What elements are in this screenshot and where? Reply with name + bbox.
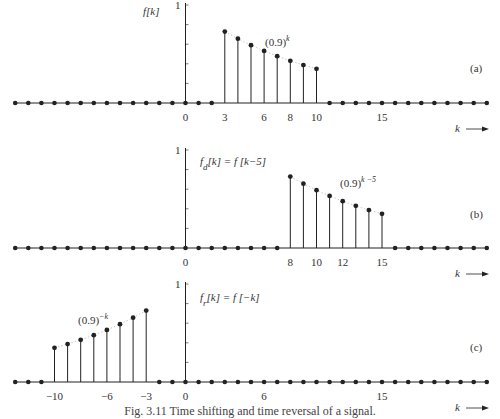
zero-sample — [354, 101, 359, 106]
panel-title: fd[k] = f [k−5] — [200, 155, 266, 172]
zero-sample — [471, 101, 476, 106]
zero-sample — [131, 246, 136, 251]
zero-sample — [236, 246, 241, 251]
zero-sample — [249, 246, 254, 251]
zero-sample — [432, 380, 437, 385]
zero-sample — [39, 246, 44, 251]
panel-title: f[k] — [143, 5, 160, 17]
zero-sample — [183, 380, 188, 385]
zero-sample — [419, 246, 424, 251]
zero-sample — [170, 101, 175, 106]
y-tick-label-1: 1 — [175, 278, 181, 290]
stem-sample — [288, 58, 293, 63]
stem-sample — [78, 337, 83, 342]
zero-sample — [13, 101, 18, 106]
zero-sample — [406, 246, 411, 251]
formula-label: (0.9)k — [265, 34, 290, 49]
panel-label: (a) — [470, 62, 483, 75]
zero-sample — [157, 246, 162, 251]
zero-sample — [406, 101, 411, 106]
zero-sample — [209, 246, 214, 251]
x-tick-label: 6 — [261, 390, 267, 402]
zero-sample — [118, 101, 123, 106]
zero-sample — [236, 380, 241, 385]
figure-caption: Fig. 3.11 Time shifting and time reversa… — [0, 404, 500, 419]
zero-sample — [13, 380, 18, 385]
stem-sample — [131, 315, 136, 320]
zero-sample — [157, 380, 162, 385]
zero-sample — [340, 101, 345, 106]
zero-sample — [144, 101, 149, 106]
zero-sample — [78, 101, 83, 106]
zero-sample — [471, 246, 476, 251]
stem-sample — [353, 203, 358, 208]
zero-sample — [170, 380, 175, 385]
zero-sample — [39, 380, 44, 385]
zero-sample — [262, 246, 267, 251]
zero-sample — [301, 380, 306, 385]
k-axis-label: k — [455, 267, 461, 279]
stem-sample — [222, 29, 227, 34]
arrowhead-icon — [482, 272, 489, 277]
stem-sample — [65, 342, 70, 347]
zero-sample — [92, 246, 97, 251]
zero-sample — [196, 101, 201, 106]
x-tick-label: 15 — [377, 111, 389, 123]
x-tick-label: 8 — [288, 256, 294, 268]
zero-sample — [26, 380, 31, 385]
zero-sample — [144, 246, 149, 251]
zero-sample — [393, 101, 398, 106]
stem-sample — [144, 308, 149, 313]
zero-sample — [105, 246, 110, 251]
zero-sample — [367, 380, 372, 385]
panel-label: (c) — [470, 341, 483, 354]
zero-sample — [393, 246, 398, 251]
stem-sample — [105, 328, 110, 333]
zero-sample — [380, 380, 385, 385]
zero-sample — [288, 380, 293, 385]
zero-sample — [262, 380, 267, 385]
zero-sample — [157, 101, 162, 106]
zero-sample — [223, 246, 228, 251]
zero-sample — [458, 380, 463, 385]
zero-sample — [275, 246, 280, 251]
zero-sample — [275, 380, 280, 385]
x-tick-label: 8 — [288, 111, 294, 123]
arrowhead-icon — [482, 127, 489, 132]
zero-sample — [13, 246, 18, 251]
x-tick-label: 15 — [377, 256, 389, 268]
zero-sample — [196, 246, 201, 251]
panel-label: (b) — [470, 208, 483, 221]
stem-sample — [301, 181, 306, 186]
x-tick-label: −3 — [140, 390, 152, 402]
zero-sample — [183, 246, 188, 251]
y-tick-label-1: 1 — [175, 0, 181, 11]
stem-sample — [118, 322, 123, 327]
zero-sample — [52, 246, 57, 251]
zero-sample — [432, 246, 437, 251]
x-tick-label: 0 — [183, 390, 189, 402]
zero-sample — [458, 101, 463, 106]
x-tick-label: 0 — [183, 111, 189, 123]
stem-sample — [314, 66, 319, 71]
stem-sample — [301, 63, 306, 68]
zero-sample — [249, 380, 254, 385]
zero-sample — [52, 101, 57, 106]
zero-sample — [445, 246, 450, 251]
x-tick-label: −10 — [46, 390, 64, 402]
zero-sample — [209, 101, 214, 106]
stem-panel-a: 103681015k(a)f[k](0.9)k — [13, 0, 489, 134]
zero-sample — [327, 101, 332, 106]
stem-sample — [236, 36, 241, 41]
stem-sample — [314, 188, 319, 193]
stem-sample — [275, 54, 280, 59]
zero-sample — [485, 380, 490, 385]
zero-sample — [131, 101, 136, 106]
y-tick-label-1: 1 — [175, 144, 181, 156]
zero-sample — [485, 101, 490, 106]
x-tick-label: 10 — [311, 256, 323, 268]
zero-sample — [419, 380, 424, 385]
stem-sample — [249, 43, 254, 48]
x-tick-label: 12 — [337, 256, 348, 268]
panel-title: fr[k] = f [−k] — [200, 291, 260, 308]
